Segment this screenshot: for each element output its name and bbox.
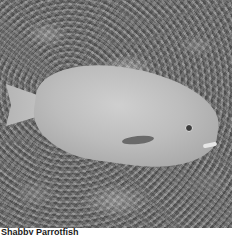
fish-eye (185, 124, 193, 132)
photo-caption: Shabby Parrotfish (1, 227, 79, 235)
parrotfish-photo (0, 0, 232, 228)
